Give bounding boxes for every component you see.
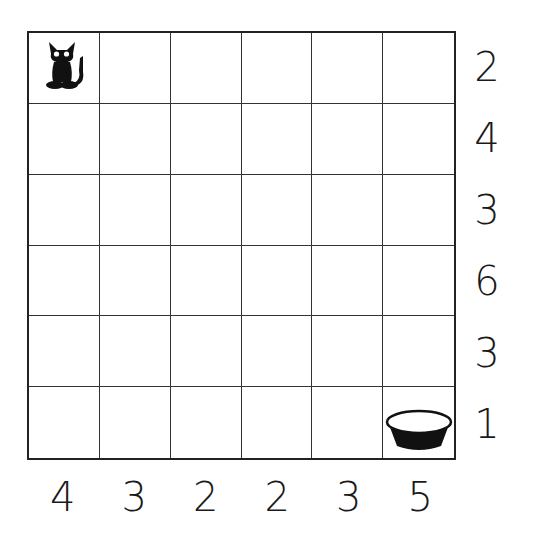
column-clue-1: 4 bbox=[27, 462, 99, 532]
row-clues: 2 4 3 6 3 1 bbox=[462, 31, 512, 460]
grid-cell-r1-c2[interactable] bbox=[100, 33, 171, 104]
grid-cell-r1-c1[interactable] bbox=[29, 33, 100, 104]
grid-cell-r1-c5[interactable] bbox=[312, 33, 383, 104]
grid-cell-r3-c3[interactable] bbox=[171, 175, 242, 246]
grid-cell-r5-c4[interactable] bbox=[242, 316, 313, 387]
grid-cell-r4-c6[interactable] bbox=[383, 246, 454, 317]
grid-cell-r3-c2[interactable] bbox=[100, 175, 171, 246]
grid-cell-r3-c6[interactable] bbox=[383, 175, 454, 246]
grid-cell-r5-c3[interactable] bbox=[171, 316, 242, 387]
grid-cell-r3-c1[interactable] bbox=[29, 175, 100, 246]
column-clue-4: 2 bbox=[242, 462, 314, 532]
grid-cell-r4-c3[interactable] bbox=[171, 246, 242, 317]
grid-cell-r4-c5[interactable] bbox=[312, 246, 383, 317]
cat-icon bbox=[41, 38, 91, 92]
grid-cell-r6-c3[interactable] bbox=[171, 387, 242, 458]
grid-cell-r3-c4[interactable] bbox=[242, 175, 313, 246]
grid-cell-r4-c2[interactable] bbox=[100, 246, 171, 317]
grid-cell-r5-c5[interactable] bbox=[312, 316, 383, 387]
grid-cell-r2-c1[interactable] bbox=[29, 104, 100, 175]
row-clue-6: 1 bbox=[462, 389, 512, 461]
grid-cell-r2-c2[interactable] bbox=[100, 104, 171, 175]
grid-cell-r5-c1[interactable] bbox=[29, 316, 100, 387]
grid-cell-r1-c3[interactable] bbox=[171, 33, 242, 104]
grid-cell-r3-c5[interactable] bbox=[312, 175, 383, 246]
row-clue-3: 3 bbox=[462, 174, 512, 246]
grid-cell-r4-c1[interactable] bbox=[29, 246, 100, 317]
grid-cell-r6-c5[interactable] bbox=[312, 387, 383, 458]
puzzle-grid bbox=[27, 31, 456, 460]
grid-cell-r6-c4[interactable] bbox=[242, 387, 313, 458]
column-clue-3: 2 bbox=[170, 462, 242, 532]
row-clue-5: 3 bbox=[462, 317, 512, 389]
column-clue-5: 3 bbox=[313, 462, 385, 532]
grid-cell-r1-c4[interactable] bbox=[242, 33, 313, 104]
row-clue-4: 6 bbox=[462, 246, 512, 318]
grid-cell-r6-c2[interactable] bbox=[100, 387, 171, 458]
grid-cell-r6-c1[interactable] bbox=[29, 387, 100, 458]
row-clue-1: 2 bbox=[462, 31, 512, 103]
grid-cell-r5-c6[interactable] bbox=[383, 316, 454, 387]
grid-cell-r1-c6[interactable] bbox=[383, 33, 454, 104]
bowl-icon bbox=[385, 408, 453, 454]
column-clue-6: 5 bbox=[385, 462, 457, 532]
grid-cell-r2-c5[interactable] bbox=[312, 104, 383, 175]
grid-cell-r2-c4[interactable] bbox=[242, 104, 313, 175]
grid-cell-r5-c2[interactable] bbox=[100, 316, 171, 387]
column-clues: 4 3 2 2 3 5 bbox=[27, 462, 456, 532]
grid-cell-r6-c6[interactable] bbox=[383, 387, 454, 458]
grid-cell-r2-c6[interactable] bbox=[383, 104, 454, 175]
grid-cell-r4-c4[interactable] bbox=[242, 246, 313, 317]
grid-cell-r2-c3[interactable] bbox=[171, 104, 242, 175]
column-clue-2: 3 bbox=[99, 462, 171, 532]
row-clue-2: 4 bbox=[462, 103, 512, 175]
